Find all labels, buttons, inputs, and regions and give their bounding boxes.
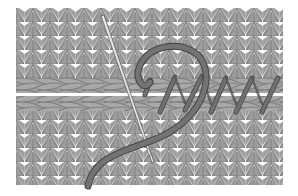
knitting-seam-diagram	[0, 0, 298, 196]
